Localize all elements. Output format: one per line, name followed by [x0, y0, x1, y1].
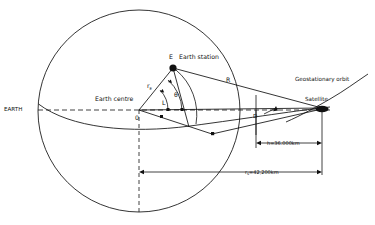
- angle-tick-e: [160, 115, 163, 118]
- rs-arrow-right: [317, 170, 322, 174]
- ground-projection-line-1: [139, 110, 212, 134]
- angle-tick-b: [168, 79, 172, 83]
- earth-radius-line: [139, 68, 173, 110]
- geostationary-geometry-svg: EARTH Earth centre 0 E Earth station R r…: [0, 0, 375, 225]
- d-label: D: [253, 113, 257, 119]
- rs-arrow-left: [139, 170, 144, 174]
- geostationary-orbit-label: Geostationary orbit: [295, 76, 350, 83]
- orbit-radius-dimension-label: rs=42,200km: [245, 169, 279, 176]
- satellite-label: Satellite: [305, 96, 328, 102]
- height-dimension-label: h=36.000km: [267, 140, 300, 146]
- h-arrow-left: [256, 141, 261, 145]
- equator-arc: [39, 104, 331, 129]
- earth-centre-label: Earth centre: [95, 95, 134, 102]
- slant-range-label: R: [226, 76, 231, 83]
- orbit-radius-value: =42,200km: [249, 169, 279, 175]
- earth-station-point: [169, 64, 176, 71]
- angle-tick-f: [211, 132, 214, 135]
- theta-angle-label: θ: [174, 91, 178, 98]
- h-arrow-right: [317, 141, 322, 145]
- earth-label: EARTH: [4, 106, 22, 112]
- angle-tick-c: [167, 108, 170, 111]
- earth-radius-subscript: E: [150, 86, 153, 91]
- angle-tick-d: [181, 108, 184, 111]
- diagram-canvas: EARTH Earth centre 0 E Earth station R r…: [0, 0, 375, 225]
- latitude-angle-label: L: [162, 99, 166, 106]
- earth-station-point-label: E: [169, 53, 173, 60]
- satellite-marker: [315, 106, 328, 113]
- earth-station-label: Earth station: [179, 53, 219, 60]
- origin-label: 0: [135, 114, 139, 121]
- earth-radius-label: rE: [147, 82, 153, 91]
